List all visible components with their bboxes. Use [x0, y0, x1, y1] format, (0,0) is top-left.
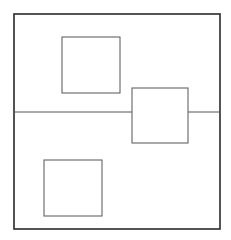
top-left-square [62, 37, 120, 93]
diagram-canvas [0, 0, 231, 240]
bottom-left-square [44, 160, 102, 216]
right-square [132, 88, 188, 143]
